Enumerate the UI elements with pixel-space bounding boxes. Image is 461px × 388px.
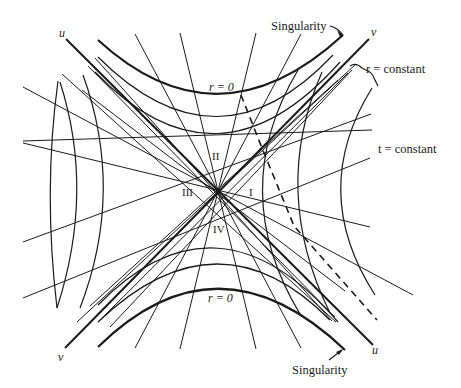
r-constant-label: r = constant bbox=[366, 62, 426, 76]
u-label-bottom: u bbox=[372, 343, 378, 357]
region-III-label: III bbox=[182, 186, 193, 198]
region-IV-label: IV bbox=[213, 223, 225, 235]
bifurcation-point bbox=[216, 189, 221, 194]
r-zero-label-bottom: r = 0 bbox=[208, 291, 233, 305]
u-label-top: u bbox=[59, 26, 65, 40]
region-II-label: II bbox=[212, 150, 220, 162]
v-label-top: v bbox=[371, 25, 377, 39]
t-constant-label: t = constant bbox=[378, 142, 437, 156]
v-label-bottom: v bbox=[58, 350, 64, 364]
r-constant-left bbox=[50, 75, 103, 308]
infall-trajectory bbox=[241, 95, 377, 320]
r-constant-right bbox=[262, 70, 375, 314]
singularity-label-bottom: Singularity bbox=[292, 363, 348, 377]
kruskal-diagram: u v v u II III I IV Singularity Singular… bbox=[0, 0, 461, 388]
region-I-label: I bbox=[249, 186, 253, 198]
r-zero-label-top: r = 0 bbox=[209, 80, 234, 94]
singularity-label-top: Singularity bbox=[271, 19, 327, 33]
